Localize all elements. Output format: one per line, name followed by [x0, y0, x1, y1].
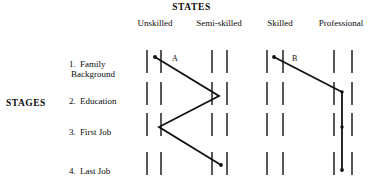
trajectory-line-b — [274, 57, 342, 170]
trajectory-node-b-2 — [340, 90, 343, 93]
trajectory-end-marker-a — [219, 163, 223, 167]
trajectory-line-a — [155, 57, 221, 165]
trajectory-paths — [153, 55, 344, 172]
trajectory-node-b-3 — [340, 125, 343, 128]
trajectory-start-marker-a — [153, 55, 157, 59]
state-tick-grid — [147, 50, 352, 175]
mobility-path-diagram: STATES Unskilled Semi-skilled Skilled Pr… — [0, 0, 383, 180]
diagram-canvas — [0, 0, 383, 180]
trajectory-end-marker-b — [340, 168, 344, 172]
trajectory-start-marker-b — [272, 55, 276, 59]
